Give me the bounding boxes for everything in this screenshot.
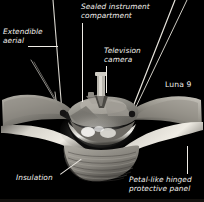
label-extendible-aerial: Extendible aerial xyxy=(3,28,43,45)
label-spacecraft-name: Luna 9 xyxy=(165,81,192,90)
label-television-camera: Television camera xyxy=(104,47,141,64)
leader-television-camera xyxy=(106,66,107,93)
luna-9-annotated-photo: Extendible aerial Sealed instrument comp… xyxy=(0,0,204,202)
leader-extendible-aerial xyxy=(28,46,58,47)
label-petal-panel: Petal-like hinged protective panel xyxy=(129,176,192,193)
dome-specular-3 xyxy=(94,126,104,132)
deck-block xyxy=(88,92,94,97)
leader-petal-panel xyxy=(187,146,188,174)
label-insulation: Insulation xyxy=(16,174,53,183)
dome-specular-1 xyxy=(81,127,95,137)
hinge-left xyxy=(60,110,66,116)
leader-sealed-instrument-compartment xyxy=(82,23,83,102)
hinge-right xyxy=(129,111,135,117)
bottom-edge-band xyxy=(0,199,204,202)
label-sealed-instrument-compartment: Sealed instrument compartment xyxy=(81,3,150,20)
